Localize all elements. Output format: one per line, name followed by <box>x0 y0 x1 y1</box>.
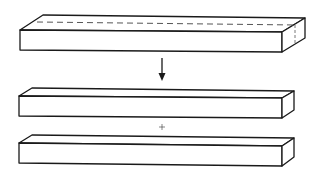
down-arrow-icon <box>159 58 166 81</box>
upper-part-front-face <box>19 96 282 118</box>
original-block-front-face <box>20 30 282 52</box>
upper-part-block <box>19 88 294 118</box>
lower-part-front-face <box>19 143 282 166</box>
lower-part-block <box>19 135 294 166</box>
plus-icon <box>159 124 165 130</box>
split-block-diagram <box>0 0 323 174</box>
original-block <box>20 15 305 52</box>
